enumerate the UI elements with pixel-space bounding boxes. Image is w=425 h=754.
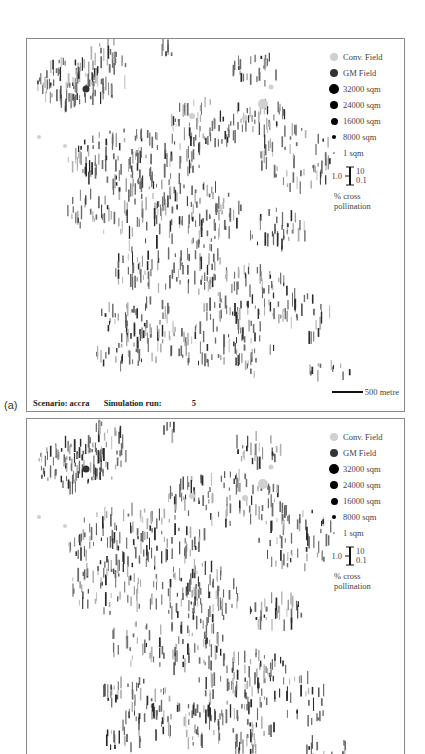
legend-dot-icon: [328, 464, 340, 474]
legend-item: 32000 sqm: [328, 461, 398, 477]
map-legend-b: Conv. FieldGM Field32000 sqm24000 sqm160…: [328, 429, 398, 591]
legend-item: 1 sqm: [328, 145, 398, 161]
legend-caption: % cross pollination: [328, 191, 398, 211]
legend-item-label: Conv. Field: [343, 52, 383, 62]
map-legend: Conv. FieldGM Field32000 sqm24000 sqm160…: [328, 49, 398, 211]
legend-dot-icon: [328, 532, 340, 534]
legend-dot-icon: [328, 135, 340, 139]
scale-bar: 500 metre: [332, 387, 399, 397]
legend-dot-icon: [328, 433, 340, 441]
error-bar-icon: [345, 545, 355, 567]
error-bar-center-label-b: 1.0: [328, 551, 342, 561]
legend-caption-line2: pollination: [334, 201, 398, 211]
legend-item: GM Field: [328, 65, 398, 81]
error-bar-center-label: 1.0: [328, 171, 342, 181]
legend-item-label: GM Field: [343, 68, 376, 78]
legend-item-label: 16000 sqm: [343, 496, 381, 506]
legend-item: 8000 sqm: [328, 129, 398, 145]
legend-item: 24000 sqm: [328, 477, 398, 493]
legend-item-label: GM Field: [343, 448, 376, 458]
scenario-caption: Scenario: accra Simulation run: 5: [33, 398, 196, 408]
legend-dot-icon: [328, 53, 340, 61]
simulation-run-value: 5: [192, 398, 196, 408]
error-bar-bottom-label-b: 0.1: [356, 556, 367, 565]
legend-item: 16000 sqm: [328, 493, 398, 509]
legend-item: 16000 sqm: [328, 113, 398, 129]
legend-item-label: 32000 sqm: [343, 464, 381, 474]
legend-dot-icon: [328, 118, 340, 125]
panel-label-a: (a): [4, 399, 17, 411]
legend-caption-b: % cross pollination: [328, 571, 398, 591]
legend-dot-icon: [328, 152, 340, 154]
legend-dot-icon: [328, 69, 340, 77]
legend-item-label: 8000 sqm: [343, 132, 376, 142]
legend-dot-icon: [328, 498, 340, 505]
scale-bar-label: 500 metre: [365, 387, 399, 397]
error-bar-bottom-label: 0.1: [356, 176, 367, 185]
legend-item-label: 1 sqm: [343, 148, 364, 158]
legend-item-label: 24000 sqm: [343, 480, 381, 490]
legend-item: GM Field: [328, 445, 398, 461]
map-panel-b: Conv. FieldGM Field32000 sqm24000 sqm160…: [26, 418, 405, 754]
error-bar-legend-b: 1.0 10 0.1: [328, 543, 398, 569]
legend-item: 8000 sqm: [328, 509, 398, 525]
legend-dot-icon: [328, 449, 340, 457]
scenario-label: Scenario: accra: [33, 398, 89, 408]
legend-item-label: 32000 sqm: [343, 84, 381, 94]
legend-dot-icon: [328, 101, 340, 110]
error-bar-icon: [345, 165, 355, 187]
legend-caption-line1-b: % cross: [334, 571, 398, 581]
legend-item-label: 8000 sqm: [343, 512, 376, 522]
legend-dot-icon: [328, 515, 340, 519]
legend-item: Conv. Field: [328, 49, 398, 65]
legend-items-b: Conv. FieldGM Field32000 sqm24000 sqm160…: [328, 429, 398, 541]
legend-item: 32000 sqm: [328, 81, 398, 97]
legend-item: 1 sqm: [328, 525, 398, 541]
simulation-run-label: Simulation run:: [104, 398, 162, 408]
scale-bar-line: [332, 391, 363, 393]
legend-item-label: 16000 sqm: [343, 116, 381, 126]
legend-item-label: 1 sqm: [343, 528, 364, 538]
legend-caption-line2-b: pollination: [334, 581, 398, 591]
error-bar-legend: 1.0 10 0.1: [328, 163, 398, 189]
legend-dot-icon: [328, 481, 340, 490]
map-panel-a: Conv. FieldGM Field32000 sqm24000 sqm160…: [26, 38, 405, 412]
legend-item-label: Conv. Field: [343, 432, 383, 442]
legend-item: Conv. Field: [328, 429, 398, 445]
legend-dot-icon: [328, 84, 340, 94]
legend-item: 24000 sqm: [328, 97, 398, 113]
legend-caption-line1: % cross: [334, 191, 398, 201]
legend-items: Conv. FieldGM Field32000 sqm24000 sqm160…: [328, 49, 398, 161]
legend-item-label: 24000 sqm: [343, 100, 381, 110]
